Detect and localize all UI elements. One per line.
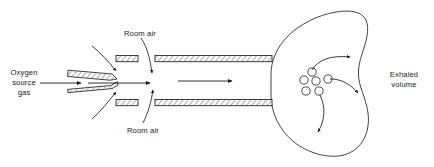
label-oxygen-source-gas: Oxygen source gas [10,68,37,97]
particle [300,76,308,84]
diagram-canvas: Oxygen source gas Room air Room air Exha… [0,0,434,167]
main-tube-upper [155,56,272,62]
room-air-arrow-lower-left [92,92,116,119]
particle [312,77,320,85]
exhale-arrow-middle [330,79,358,93]
room-air-arrow-lower-right [143,90,153,123]
particle [302,87,310,95]
exhaled-line1: Exhaled [390,70,419,79]
oxygen-source-line2: source [12,78,36,87]
exhale-arrow-upper [312,57,350,70]
oxygen-source-line1: Oxygen [10,68,37,77]
label-room-air-bottom: Room air [127,126,159,135]
reservoir-bag-outline [271,11,368,156]
particle [308,68,316,76]
oxygen-source-line3: gas [18,88,31,97]
room-air-arrow-upper-left [92,46,116,71]
entrainment-arrows-group [92,38,153,123]
label-room-air-top: Room air [124,29,156,38]
exhale-arrow-lower [318,95,324,132]
exhaled-line2: volume [391,80,416,89]
nozzle-tube-upper [68,70,117,80]
label-exhaled-volume: Exhaled volume [390,70,419,89]
reservoir-outline-group [271,11,368,156]
gas-particles-group [300,68,332,95]
particle [315,87,323,95]
main-tube-lower [155,100,272,106]
entrainment-port-lower-inner [116,100,138,106]
room-air-arrow-upper-right [141,38,152,73]
entrainment-port-upper-inner [116,56,138,62]
oxygen-mask-schematic: Oxygen source gas Room air Room air Exha… [0,0,434,167]
